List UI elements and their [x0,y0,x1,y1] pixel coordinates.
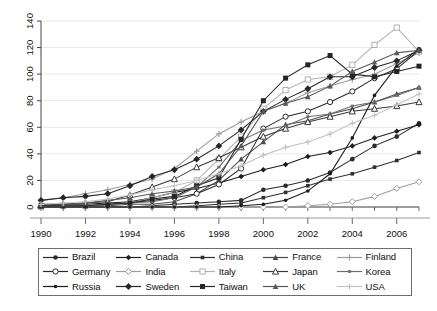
data-point [216,182,221,187]
series-line [41,56,419,206]
legend-label: Brazil [72,252,95,262]
data-point [171,166,178,173]
data-point [261,98,266,103]
legend-item-india[interactable]: India [115,266,188,277]
data-point [260,152,266,158]
data-point [306,184,310,188]
legend-label: USA [366,282,385,292]
x-tick-label: 1998 [208,228,229,239]
legend-swatch-filled-square-icon [189,281,216,292]
data-point [306,178,311,183]
series-line [41,125,419,205]
legend-item-korea[interactable]: Korea [336,266,409,277]
data-point [394,25,399,30]
data-point [347,271,350,274]
data-point [126,255,132,261]
data-point [261,187,266,192]
legend-label: Canada [145,252,178,262]
data-point [372,42,377,47]
data-point [328,172,332,176]
series-canada [38,122,422,207]
data-point [373,94,377,98]
data-point [54,285,58,289]
series-france [38,84,422,209]
legend-item-sweden[interactable]: Sweden [115,281,188,292]
x-tick-label: 1992 [75,228,96,239]
legend-swatch-open-square-icon [189,266,216,277]
data-point [346,284,352,290]
legend-item-russia[interactable]: Russia [42,281,115,292]
x-tick-label: 2006 [386,228,407,239]
data-point [305,94,311,99]
legend-label: Japan [292,267,317,277]
data-point [215,142,222,149]
legend-label: Italy [219,267,236,277]
data-point [373,165,377,169]
legend-swatch-filled-square-small-icon [189,252,216,263]
data-point [372,74,377,79]
x-tick-label: 1990 [30,228,51,239]
legend-label: France [292,252,321,262]
data-point [328,177,332,181]
data-point [395,94,398,97]
data-point [394,134,399,139]
data-point [305,139,311,145]
legend-label: Taiwan [219,282,248,292]
legend-label: UK [292,282,305,292]
legend-swatch-filled-diamond-icon [115,252,142,263]
legend-item-japan[interactable]: Japan [262,266,335,277]
data-point [327,201,333,207]
data-point [125,283,132,290]
legend-label: Korea [366,267,391,277]
data-point [305,203,311,209]
legend-item-canada[interactable]: Canada [115,252,188,263]
legend-item-usa[interactable]: USA [336,281,409,292]
data-point [283,87,288,92]
data-point [261,167,267,173]
legend-item-uk[interactable]: UK [262,281,335,292]
legend-item-italy[interactable]: Italy [189,266,262,277]
data-point [262,129,265,132]
data-point [126,269,132,275]
data-point [416,91,422,97]
data-point [217,166,220,169]
data-point [306,189,310,193]
legend-item-finland[interactable]: Finland [336,252,409,263]
data-point [172,194,177,199]
series-brazil [39,121,422,209]
data-point [128,205,132,209]
data-point [200,284,205,289]
data-point [238,119,244,125]
x-tick-label: 1996 [164,228,185,239]
y-tick-label: 80 [24,95,35,106]
data-point [417,64,422,69]
legend-label: Germany [72,267,110,277]
data-point [261,139,267,144]
legend-item-france[interactable]: France [262,252,335,263]
data-point [350,157,355,162]
data-point [305,109,310,114]
data-point [305,62,310,67]
data-point [394,185,400,191]
data-point [283,144,289,150]
data-point [53,255,58,260]
legend-item-brazil[interactable]: Brazil [42,252,115,263]
data-point [327,131,333,137]
data-point [372,135,378,141]
data-point [306,115,309,118]
legend-item-china[interactable]: China [189,252,262,263]
legend-item-germany[interactable]: Germany [42,266,115,277]
legend-label: Sweden [145,282,179,292]
data-point [328,53,333,58]
legend-swatch-light-plus-icon [336,281,363,292]
data-point [53,269,58,274]
legend-item-taiwan[interactable]: Taiwan [189,281,262,292]
legend-label: India [145,267,165,277]
data-point [283,204,289,210]
legend-swatch-filled-diamond-large-icon [115,281,142,292]
data-point [346,254,352,260]
data-point [239,137,244,142]
data-point [284,199,288,203]
data-point [150,197,155,202]
data-point [417,151,421,155]
